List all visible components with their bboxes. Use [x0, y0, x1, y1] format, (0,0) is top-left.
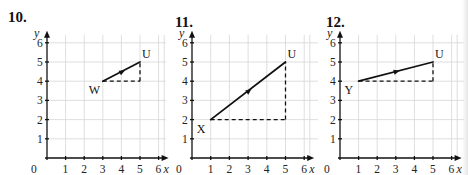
y-tick-label: 5: [37, 56, 43, 68]
x-tick-label: 3: [245, 163, 251, 175]
y-tick-label: 3: [37, 94, 43, 106]
graph-panel-1: 10.0123456123456xyWU: [8, 9, 170, 175]
coordinate-grids: 10.0123456123456xyWU11.0123456123456xyXU…: [0, 0, 468, 175]
start-point-label: X: [197, 122, 206, 136]
y-tick-label: 2: [182, 114, 188, 126]
page-edge-shadow: [462, 0, 468, 175]
y-tick-label: 4: [37, 75, 43, 87]
end-point-label: U: [288, 47, 297, 61]
graph-panel-2: 11.0123456123456xyXU: [175, 14, 318, 175]
y-tick-label: 1: [182, 133, 188, 145]
y-tick-label: 5: [330, 56, 336, 68]
graph-panel-3: 12.0123456123456xyYU: [324, 14, 464, 175]
x-tick-label: 2: [226, 163, 232, 175]
y-tick-label: 1: [330, 133, 336, 145]
y-tick-label: 1: [37, 133, 43, 145]
x-tick-label: 2: [374, 163, 380, 175]
y-axis-label: y: [326, 26, 333, 40]
grid-lines: [192, 35, 318, 158]
x-tick-label: 5: [283, 163, 289, 175]
grid-lines: [340, 35, 464, 158]
x-axis-label: x: [163, 162, 170, 175]
x-axis-arrow-icon: [162, 155, 169, 161]
x-axis-arrow-icon: [455, 155, 462, 161]
x-tick-label: 6: [449, 163, 455, 175]
x-tick-label: 0: [31, 163, 37, 175]
x-axis-arrow-icon: [307, 155, 314, 161]
end-point-label: U: [142, 47, 151, 61]
end-point-label: U: [435, 47, 444, 61]
start-point-label: Y: [345, 83, 354, 97]
y-axis-arrow-icon: [44, 31, 50, 38]
x-tick-label: 5: [137, 163, 143, 175]
x-tick-label: 1: [356, 163, 362, 175]
x-tick-label: 4: [118, 163, 124, 175]
x-tick-label: 1: [208, 163, 214, 175]
x-tick-label: 5: [430, 163, 436, 175]
x-tick-label: 6: [156, 163, 162, 175]
x-tick-label: 0: [176, 163, 182, 175]
y-tick-label: 5: [182, 56, 188, 68]
y-axis-arrow-icon: [337, 31, 343, 38]
x-tick-label: 6: [301, 163, 307, 175]
y-tick-label: 2: [330, 114, 336, 126]
x-tick-label: 4: [264, 163, 270, 175]
y-tick-label: 3: [182, 94, 188, 106]
x-axis-label: x: [308, 162, 315, 175]
y-axis-label: y: [178, 26, 185, 40]
question-number: 10.: [8, 9, 27, 25]
x-tick-label: 0: [324, 163, 330, 175]
y-tick-label: 4: [182, 75, 188, 87]
start-point-label: W: [89, 83, 101, 97]
y-axis-arrow-icon: [189, 31, 195, 38]
x-tick-label: 1: [63, 163, 69, 175]
x-tick-label: 2: [81, 163, 87, 175]
x-tick-label: 4: [411, 163, 417, 175]
y-tick-label: 2: [37, 114, 43, 126]
x-tick-label: 3: [393, 163, 399, 175]
y-tick-label: 3: [330, 94, 336, 106]
y-tick-label: 4: [330, 75, 336, 87]
x-tick-label: 3: [100, 163, 106, 175]
y-axis-label: y: [33, 26, 40, 40]
vector-exercise-figure: 10.0123456123456xyWU11.0123456123456xyXU…: [0, 0, 468, 175]
